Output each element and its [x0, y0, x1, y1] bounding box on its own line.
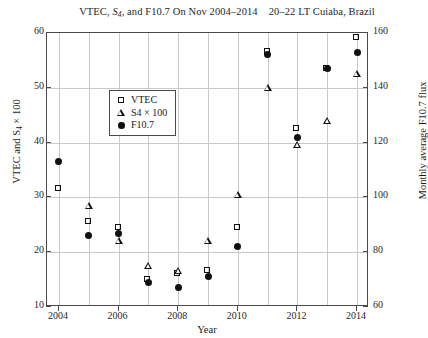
- y-axis-left-tick-label: 40: [10, 135, 44, 146]
- data-point-open-triangle: [85, 202, 93, 209]
- data-point-open-square: [293, 125, 299, 131]
- data-point-open-square: [85, 218, 91, 224]
- data-point-open-square: [353, 34, 359, 40]
- gridline-horizontal: [47, 88, 367, 89]
- y-axis-left-title-subscript: 4: [15, 126, 24, 130]
- data-point-filled-circle: [85, 232, 92, 239]
- y-axis-right-tick: [363, 87, 368, 88]
- y-axis-left-tick: [46, 142, 51, 143]
- data-point-filled-circle: [205, 273, 212, 280]
- gridline-vertical-minor: [89, 33, 90, 305]
- y-axis-left-tick-label: 50: [10, 80, 44, 91]
- y-axis-left-tick: [46, 87, 51, 88]
- x-axis-tick-label: 2006: [96, 310, 140, 321]
- y-axis-left-title-tail: × 100: [11, 99, 22, 126]
- y-axis-right-tick-label: 140: [373, 80, 407, 91]
- gridline-vertical: [59, 33, 60, 305]
- y-axis-right-tick: [363, 251, 368, 252]
- chart-title: VTEC, S4, and F10.7 On Nov 2004–201420–2…: [52, 6, 402, 19]
- chart-title-part1: VTEC,: [79, 6, 112, 17]
- x-axis-tick-label: 2010: [215, 310, 259, 321]
- legend-item-label: VTEC: [129, 94, 157, 107]
- y-axis-left-tick: [46, 306, 51, 307]
- x-axis-tick-label: 2008: [155, 310, 199, 321]
- y-axis-left-tick-label: 10: [10, 299, 44, 310]
- y-axis-right-tick-label: 80: [373, 244, 407, 255]
- y-axis-right-tick-label: 160: [373, 25, 407, 36]
- open-square-icon: [115, 94, 129, 106]
- y-axis-right-tick: [363, 196, 368, 197]
- gridline-vertical-minor: [208, 33, 209, 305]
- chart-title-part3: 20–22 LT Cuiaba, Brazil: [269, 6, 375, 17]
- plot-area: VTECS4 × 100F10.7: [46, 32, 368, 306]
- x-axis-tick-label: 2004: [36, 310, 80, 321]
- gridline-horizontal: [47, 197, 367, 198]
- y-axis-right-title: Monthly average F10.7 flux: [417, 41, 428, 241]
- x-axis-title: Year: [46, 324, 368, 335]
- chart-title-part2: , and F10.7 On Nov 2004–2014: [122, 6, 258, 17]
- y-axis-left-tick-label: 60: [10, 25, 44, 36]
- gridline-vertical: [238, 33, 239, 305]
- gridline-horizontal: [47, 143, 367, 144]
- legend-item: VTEC: [115, 94, 167, 107]
- x-axis-tick-label: 2012: [274, 310, 318, 321]
- legend: VTECS4 × 100F10.7: [109, 90, 176, 136]
- data-point-filled-circle: [115, 230, 122, 237]
- legend-item-label: S4 × 100: [129, 107, 167, 120]
- data-point-filled-circle: [175, 284, 182, 291]
- data-point-open-triangle: [144, 262, 152, 269]
- open-triangle-icon: [115, 107, 129, 119]
- y-axis-right-tick-label: 100: [373, 189, 407, 200]
- gridline-vertical-minor: [268, 33, 269, 305]
- data-point-filled-circle: [354, 49, 361, 56]
- legend-item-label: F10.7: [129, 119, 154, 132]
- data-point-open-triangle: [353, 70, 361, 77]
- y-axis-right-tick: [363, 32, 368, 33]
- legend-item: S4 × 100: [115, 107, 167, 120]
- data-point-open-square: [115, 224, 121, 230]
- data-point-filled-circle: [234, 243, 241, 250]
- data-point-filled-circle: [264, 51, 271, 58]
- gridline-vertical: [119, 33, 120, 305]
- data-point-open-square: [55, 185, 61, 191]
- y-axis-left-tick-label: 30: [10, 189, 44, 200]
- gridline-vertical-minor: [327, 33, 328, 305]
- y-axis-right-tick-label: 120: [373, 135, 407, 146]
- y-axis-right-tick: [363, 142, 368, 143]
- data-point-open-square: [234, 224, 240, 230]
- data-point-open-triangle: [115, 237, 123, 244]
- data-point-filled-circle: [145, 279, 152, 286]
- data-point-open-triangle: [234, 191, 242, 198]
- gridline-vertical: [178, 33, 179, 305]
- filled-circle-icon: [115, 119, 129, 131]
- y-axis-left-tick: [46, 251, 51, 252]
- y-axis-right-tick-label: 60: [373, 299, 407, 310]
- gridline-vertical: [297, 33, 298, 305]
- y-axis-right-tick: [363, 306, 368, 307]
- y-axis-left-tick: [46, 196, 51, 197]
- x-axis-tick-label: 2014: [334, 310, 378, 321]
- data-point-filled-circle: [55, 158, 62, 165]
- data-point-open-triangle: [204, 237, 212, 244]
- legend-item: F10.7: [115, 119, 167, 132]
- data-point-open-triangle: [323, 117, 331, 124]
- data-point-filled-circle: [294, 134, 301, 141]
- y-axis-left-tick: [46, 32, 51, 33]
- data-point-filled-circle: [324, 65, 331, 72]
- data-point-open-triangle: [264, 84, 272, 91]
- data-point-open-triangle: [293, 141, 301, 148]
- data-point-open-triangle: [174, 267, 182, 274]
- gridline-horizontal: [47, 252, 367, 253]
- y-axis-left-tick-label: 20: [10, 244, 44, 255]
